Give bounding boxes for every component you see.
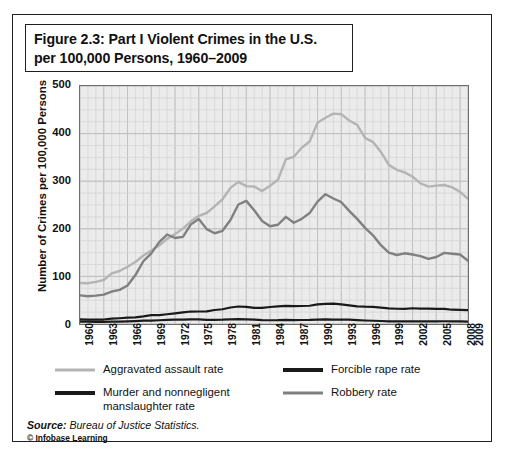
source-prefix: Source: xyxy=(27,419,66,431)
legend-item: Murder and nonnegligent manslaughter rat… xyxy=(55,386,230,414)
y-tick-500: 500 xyxy=(37,78,71,90)
figure-title-line-2: per 100,000 Persons, 1960–2009 xyxy=(34,49,344,68)
line-chart-svg xyxy=(80,86,468,324)
legend-label: Robbery rate xyxy=(331,386,397,400)
copyright-line: © Infobase Learning xyxy=(27,433,467,443)
legend-label: Aggravated assault rate xyxy=(103,363,223,377)
figure-title-box: Figure 2.3: Part I Violent Crimes in the… xyxy=(25,24,353,72)
source-text: Bureau of Justice Statistics. xyxy=(66,419,199,431)
y-tick-0: 0 xyxy=(37,318,71,330)
legend-item: Forcible rape rate xyxy=(283,363,420,377)
legend-swatch xyxy=(55,363,95,377)
legend-swatch xyxy=(283,363,323,377)
source-line: Source: Bureau of Justice Statistics. xyxy=(27,419,467,431)
figure-panel: Figure 2.3: Part I Violent Crimes in the… xyxy=(12,14,492,442)
chart-legend: Aggravated assault rateForcible rape rat… xyxy=(13,363,493,415)
chart-area: Number of Crimes per 100,000 Persons 010… xyxy=(13,77,493,345)
figure-title-line-1: Figure 2.3: Part I Violent Crimes in the… xyxy=(34,30,344,49)
source-block: Source: Bureau of Justice Statistics. © … xyxy=(27,419,467,443)
y-tick-300: 300 xyxy=(37,174,71,186)
legend-label: Murder and nonnegligent manslaughter rat… xyxy=(103,386,230,414)
y-tick-200: 200 xyxy=(37,222,71,234)
y-tick-100: 100 xyxy=(37,270,71,282)
legend-swatch xyxy=(55,386,95,400)
y-tick-400: 400 xyxy=(37,126,71,138)
legend-item: Robbery rate xyxy=(283,386,397,400)
legend-item: Aggravated assault rate xyxy=(55,363,223,377)
plot-region xyxy=(79,85,469,325)
y-axis-tick-labels: 0100200300400500 xyxy=(37,77,71,321)
legend-swatch xyxy=(283,386,323,400)
legend-label: Forcible rape rate xyxy=(331,363,420,377)
